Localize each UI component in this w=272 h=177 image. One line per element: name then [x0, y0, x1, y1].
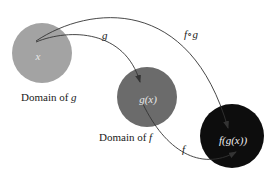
caption-domain-g-text: Domain of — [21, 91, 71, 103]
composition-diagram — [0, 0, 272, 177]
edge-label-f: f — [182, 144, 185, 155]
caption-domain-f-var: f — [149, 131, 152, 143]
caption-domain-g: Domain of g — [21, 92, 77, 103]
caption-domain-f-text: Domain of — [99, 131, 149, 143]
domain-g-circle — [12, 23, 72, 83]
node-label-gx: g(x) — [139, 94, 157, 105]
edge-label-f-compose-g: f∘g — [184, 29, 198, 40]
node-label-x: x — [36, 51, 41, 62]
edge-label-g: g — [102, 30, 108, 41]
node-label-fgx: f(g(x)) — [219, 135, 247, 146]
caption-domain-g-var: g — [71, 91, 77, 103]
caption-domain-f: Domain of f — [99, 132, 152, 143]
